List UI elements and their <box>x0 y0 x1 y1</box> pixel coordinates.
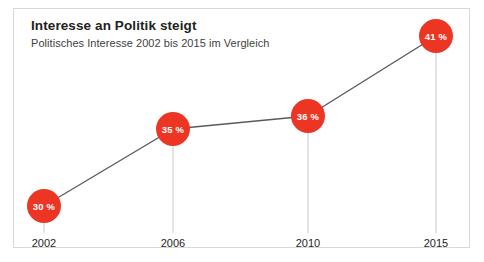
trend-line <box>44 36 436 206</box>
data-point-2006[interactable]: 35 % <box>156 112 190 146</box>
line-chart-svg <box>14 9 471 249</box>
plot-area: 30 % 35 % 36 % 41 % 2002 2006 2010 2015 <box>14 9 471 249</box>
x-axis-label-2002: 2002 <box>19 237 69 249</box>
data-point-2002[interactable]: 30 % <box>27 189 61 223</box>
chart-card: Interesse an Politik steigt Politisches … <box>13 8 470 248</box>
data-point-2010[interactable]: 36 % <box>291 99 325 133</box>
data-point-2015[interactable]: 41 % <box>419 19 453 53</box>
x-axis-label-2010: 2010 <box>283 237 333 249</box>
x-axis-label-2006: 2006 <box>148 237 198 249</box>
x-axis-label-2015: 2015 <box>411 237 461 249</box>
